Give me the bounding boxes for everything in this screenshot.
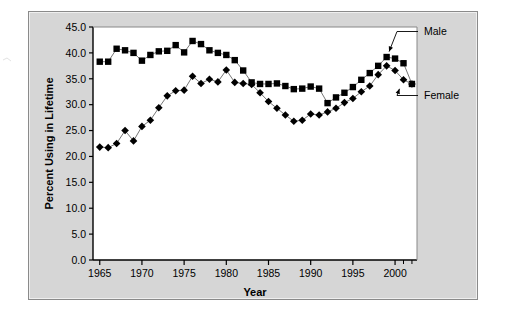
- data-point: [333, 94, 339, 100]
- y-tick-label: 15.0: [66, 176, 87, 188]
- data-point: [139, 57, 145, 63]
- x-tick-label: 1975: [172, 267, 196, 279]
- y-tick-label: 5.0: [71, 228, 86, 240]
- annotation-label: Female: [424, 89, 459, 101]
- data-point: [265, 81, 271, 87]
- data-point: [282, 83, 288, 89]
- x-tick-label: 1980: [215, 267, 239, 279]
- data-point: [97, 58, 103, 64]
- x-tick-label: 2000: [383, 267, 407, 279]
- x-tick-label: 1970: [130, 267, 154, 279]
- x-axis-title: Year: [243, 286, 267, 298]
- data-point: [367, 70, 373, 76]
- x-tick-label: 1965: [88, 267, 112, 279]
- y-axis-title: Percent Using in Lifetime: [43, 77, 55, 209]
- data-point: [341, 90, 347, 96]
- data-point: [223, 52, 229, 58]
- line-chart: 0.05.010.015.020.025.030.035.040.045.019…: [0, 0, 510, 322]
- data-point: [113, 46, 119, 52]
- figure: 0.05.010.015.020.025.030.035.040.045.019…: [0, 0, 510, 322]
- data-point: [232, 57, 238, 63]
- data-point: [400, 60, 406, 66]
- data-point: [181, 49, 187, 55]
- data-point: [383, 54, 389, 60]
- data-point: [164, 48, 170, 54]
- data-point: [206, 47, 212, 53]
- data-point: [299, 85, 305, 91]
- data-point: [257, 81, 263, 87]
- data-point: [198, 41, 204, 47]
- data-point: [316, 85, 322, 91]
- data-point: [358, 77, 364, 83]
- x-tick-label: 1985: [257, 267, 281, 279]
- annotation-label: Male: [424, 25, 447, 37]
- y-tick-label: 0.0: [71, 254, 86, 266]
- data-point: [291, 86, 297, 92]
- data-point: [189, 38, 195, 44]
- data-point: [130, 50, 136, 56]
- data-point: [240, 67, 246, 73]
- data-point: [375, 63, 381, 69]
- data-point: [156, 48, 162, 54]
- data-point: [172, 42, 178, 48]
- y-axis: 0.05.010.015.020.025.030.035.040.045.0: [66, 21, 93, 266]
- data-point: [350, 84, 356, 90]
- data-point: [122, 47, 128, 53]
- y-tick-label: 40.0: [66, 47, 87, 59]
- data-point: [324, 100, 330, 106]
- data-point: [307, 83, 313, 89]
- data-point: [274, 80, 280, 86]
- y-tick-label: 30.0: [66, 98, 87, 110]
- x-tick-label: 1995: [341, 267, 365, 279]
- data-point: [392, 55, 398, 61]
- y-tick-label: 20.0: [66, 150, 87, 162]
- x-tick-label: 1990: [299, 267, 323, 279]
- y-tick-label: 45.0: [66, 21, 87, 33]
- data-point: [105, 58, 111, 64]
- y-tick-label: 35.0: [66, 73, 87, 85]
- data-point: [147, 52, 153, 58]
- data-point: [215, 50, 221, 56]
- y-tick-label: 25.0: [66, 124, 87, 136]
- y-tick-label: 10.0: [66, 202, 87, 214]
